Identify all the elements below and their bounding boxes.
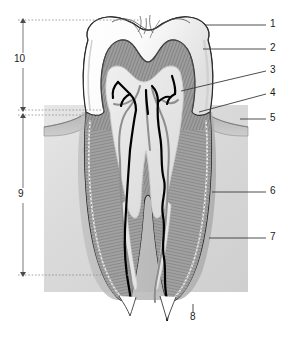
callout-label-1[interactable]: 1 <box>270 19 276 29</box>
callout-label-3[interactable]: 3 <box>270 65 276 75</box>
callout-label-6[interactable]: 6 <box>270 186 276 196</box>
callout-label-8[interactable]: 8 <box>190 312 196 322</box>
callout-label-4[interactable]: 4 <box>270 88 276 98</box>
dimension-line-10 <box>13 18 33 112</box>
callout-label-5[interactable]: 5 <box>270 113 276 123</box>
callout-label-2[interactable]: 2 <box>270 43 276 53</box>
dimension-label-9[interactable]: 9 <box>18 189 24 199</box>
tooth-cross-section-illustration <box>0 0 296 338</box>
tooth-anatomy-figure: 1 2 3 4 5 6 7 8 10 9 <box>0 0 296 338</box>
callout-label-7[interactable]: 7 <box>270 232 276 242</box>
dimension-label-10[interactable]: 10 <box>14 54 25 64</box>
